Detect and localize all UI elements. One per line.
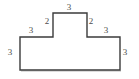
edge-label-right-shoulder: 3: [101, 26, 111, 35]
edge-label-left-shoulder: 3: [26, 26, 36, 35]
edge-label-right-riser: 2: [86, 17, 96, 26]
edge-label-top: 3: [64, 3, 74, 12]
edge-label-left-riser: 2: [42, 17, 52, 26]
polygon-path: [20, 13, 120, 70]
edge-label-right-side: 3: [120, 48, 130, 57]
edge-label-left-side: 3: [5, 48, 15, 57]
geometry-figure: 3 2 2 3 3 3 3: [0, 0, 139, 79]
